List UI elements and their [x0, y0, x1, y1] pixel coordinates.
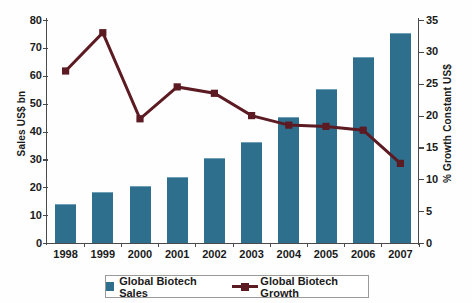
x-axis-tickmark — [121, 243, 122, 247]
x-axis-tickmark — [270, 243, 271, 247]
y-axis-right-tick-label: 10 — [426, 174, 450, 185]
legend-sales-label: Global Biotech Sales — [119, 275, 218, 299]
y-axis-right-tick-label: 5 — [426, 206, 450, 217]
x-axis-tickmark — [84, 243, 85, 247]
y-axis-right-tick-label: 25 — [426, 78, 450, 89]
line-marker — [174, 83, 181, 90]
x-axis-tickmark — [158, 243, 159, 247]
x-axis-tickmark — [233, 243, 234, 247]
y-axis-right-tickmark — [419, 147, 424, 148]
chart-container: Sales US$ bn % Growth Constant US$ 01020… — [0, 0, 472, 303]
y-axis-left-tick-label: 70 — [20, 42, 42, 53]
y-axis-right-tickmark — [419, 84, 424, 85]
y-axis-right-tickmark — [419, 211, 424, 212]
y-axis-right-tick-label: 20 — [426, 110, 450, 121]
x-axis-tick-label: 2007 — [378, 248, 422, 260]
y-axis-right-tickmark — [419, 20, 424, 21]
line-marker — [62, 67, 69, 74]
y-axis-left-tick-label: 20 — [20, 182, 42, 193]
line-series-global-biotech-growth — [47, 20, 419, 243]
line-marker — [360, 127, 367, 134]
y-axis-right-tick-label: 35 — [426, 15, 450, 26]
line-marker — [248, 112, 255, 119]
legend-item-growth: Global Biotech Growth — [232, 275, 368, 299]
x-axis-tickmark — [419, 243, 420, 247]
y-axis-left-tick-label: 30 — [20, 154, 42, 165]
y-axis-right-tick-label: 30 — [426, 46, 450, 57]
plot-area — [47, 20, 419, 243]
y-axis-left-tick-label: 40 — [20, 126, 42, 137]
legend-growth-line-icon — [232, 282, 255, 291]
legend-growth-label: Global Biotech Growth — [260, 275, 368, 299]
y-axis-left-tick-label: 80 — [20, 15, 42, 26]
y-axis-left-tick-label: 60 — [20, 70, 42, 81]
y-axis-right-tickmark — [419, 52, 424, 53]
y-axis-right-tickmark — [419, 179, 424, 180]
x-axis-tickmark — [381, 243, 382, 247]
y-axis-left-tickmark — [43, 243, 48, 244]
line-marker — [211, 90, 218, 97]
line-marker — [136, 115, 143, 122]
y-axis-right-tick-label: 15 — [426, 142, 450, 153]
x-axis-tickmark — [195, 243, 196, 247]
line-marker — [285, 122, 292, 129]
y-axis-left-tick-label: 10 — [20, 210, 42, 221]
x-axis-tickmark — [344, 243, 345, 247]
legend-sales-swatch-icon — [106, 282, 114, 291]
x-axis-tickmark — [307, 243, 308, 247]
legend-item-sales: Global Biotech Sales — [106, 275, 218, 299]
line-marker — [99, 29, 106, 36]
y-axis-right-tick-label: 0 — [426, 238, 450, 249]
line-marker — [322, 123, 329, 130]
y-axis-left-tick-label: 50 — [20, 98, 42, 109]
y-axis-right-tickmark — [419, 116, 424, 117]
y-axis-left-tick-label: 0 — [20, 238, 42, 249]
line-marker — [397, 160, 404, 167]
chart-legend: Global Biotech Sales Global Biotech Grow… — [105, 275, 369, 298]
y-axis-right-tickmark — [419, 243, 424, 244]
